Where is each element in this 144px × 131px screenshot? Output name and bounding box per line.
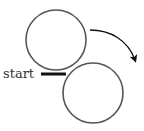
- rotation-arrow-icon: [90, 30, 135, 60]
- start-label: start: [3, 66, 35, 81]
- rolling-circles-diagram: start: [0, 0, 144, 131]
- upper-circle: [26, 10, 86, 70]
- lower-circle: [63, 63, 123, 123]
